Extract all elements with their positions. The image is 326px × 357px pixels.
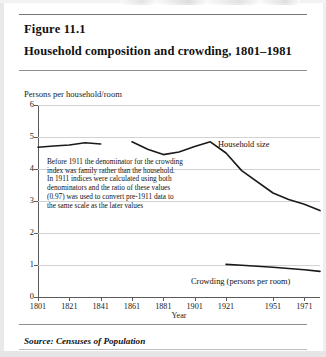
x-tick <box>195 297 196 301</box>
rule-under-title <box>19 70 307 71</box>
x-tick <box>132 297 133 301</box>
series-label-crowding: Crowding (persons per room) <box>191 277 290 286</box>
x-tick-label: 1841 <box>86 302 116 311</box>
y-tick-label: 5 <box>21 132 34 141</box>
series-line <box>226 264 320 271</box>
x-tick <box>304 297 305 301</box>
rule-top <box>19 14 307 15</box>
y-tick-label: 6 <box>21 100 34 109</box>
y-tick-label: 3 <box>21 196 34 205</box>
x-tick <box>69 297 70 301</box>
y-tick-label: 0 <box>21 292 34 301</box>
y-tick-label: 4 <box>21 164 34 173</box>
series-label-household-size: Household size <box>218 140 269 149</box>
figure-panel: Figure 11.1 Household composition and cr… <box>5 6 321 350</box>
rule-above-source <box>19 324 307 325</box>
x-axis-title: Year <box>38 311 320 320</box>
x-tick-label: 1801 <box>23 302 53 311</box>
annotation-line-6: the same scale as the later values <box>47 202 192 211</box>
x-axis-line <box>38 297 320 298</box>
page-top-clipped-text <box>120 0 300 5</box>
y-tick-label: 2 <box>21 228 34 237</box>
figure-source: Source: Censuses of Population <box>24 336 145 346</box>
x-tick <box>101 297 102 301</box>
x-tick-label: 1971 <box>289 302 319 311</box>
figure-page: Figure 11.1 Household composition and cr… <box>0 0 326 357</box>
x-tick-label: 1861 <box>117 302 147 311</box>
chart-annotation: Before 1911 the denominator for the crow… <box>47 158 192 210</box>
x-tick <box>38 297 39 301</box>
x-tick-label: 1821 <box>54 302 84 311</box>
x-tick <box>273 297 274 301</box>
x-tick-label: 1921 <box>211 302 241 311</box>
y-tick-label: 1 <box>21 260 34 269</box>
rule-bottom <box>19 349 307 350</box>
figure-number: Figure 11.1 <box>24 22 86 37</box>
x-tick-label: 1881 <box>148 302 178 311</box>
x-tick <box>163 297 164 301</box>
figure-title: Household composition and crowding, 1801… <box>24 44 292 59</box>
page-edge-left <box>0 0 4 357</box>
x-tick-label: 1951 <box>258 302 288 311</box>
x-tick <box>226 297 227 301</box>
y-axis-caption: Persons per household/room <box>24 89 122 99</box>
x-tick-label: 1901 <box>180 302 210 311</box>
page-edge-bottom <box>0 351 326 357</box>
series-line <box>38 143 101 147</box>
